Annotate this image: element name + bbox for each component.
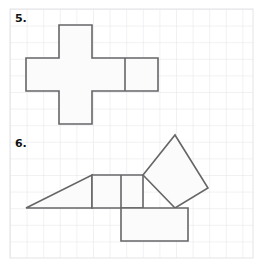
problem-number-5: 5. <box>15 13 26 24</box>
bottom-square-shape <box>121 208 188 241</box>
figure-svg <box>0 0 264 268</box>
problem-number-6: 6. <box>15 138 26 149</box>
middle-rectangle-shape <box>92 175 143 208</box>
worksheet-canvas: 5. 6. <box>0 0 264 268</box>
